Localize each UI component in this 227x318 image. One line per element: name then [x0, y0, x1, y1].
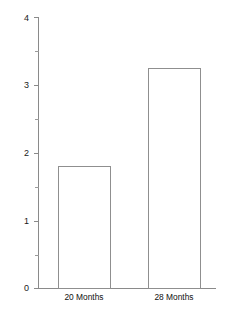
x-axis-category-labels: 20 Months 28 Months [64, 292, 193, 302]
y-tick-label-3: 3 [24, 80, 29, 90]
bar-chart: 4 3 2 1 0 20 Months 28 Months [0, 0, 227, 318]
y-axis-tick-labels: 4 3 2 1 0 [24, 13, 29, 294]
y-tick-label-1: 1 [24, 216, 29, 226]
bar-20-months [59, 167, 111, 289]
chart-canvas: 4 3 2 1 0 20 Months 28 Months [0, 0, 227, 318]
y-tick-label-4: 4 [24, 13, 29, 23]
x-label-28-months: 28 Months [154, 292, 193, 302]
bars-group [59, 68, 201, 288]
y-axis-major-ticks [34, 18, 39, 289]
x-label-20-months: 20 Months [64, 292, 103, 302]
y-tick-label-0: 0 [24, 283, 29, 293]
y-tick-label-2: 2 [24, 148, 29, 158]
bar-28-months [149, 68, 201, 288]
